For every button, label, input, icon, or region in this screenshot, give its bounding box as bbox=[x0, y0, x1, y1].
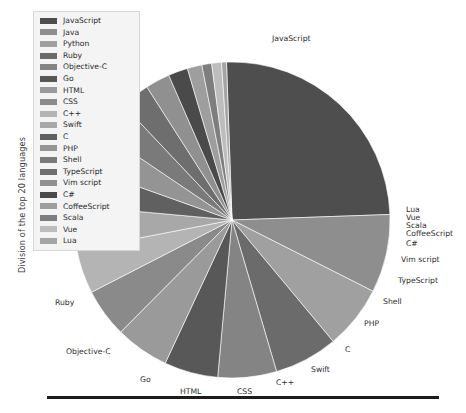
legend-item[interactable]: Ruby bbox=[37, 50, 137, 62]
pie-slice-label: Swift bbox=[311, 366, 330, 374]
legend-item-label: Python bbox=[63, 40, 89, 48]
legend-item-label: Swift bbox=[63, 121, 82, 129]
legend-swatch-icon bbox=[40, 180, 57, 186]
legend-item[interactable]: Shell bbox=[37, 154, 137, 166]
legend-item[interactable]: Vim script bbox=[37, 177, 137, 189]
legend-swatch-icon bbox=[40, 134, 57, 140]
legend-swatch-icon bbox=[40, 29, 57, 35]
legend-swatch-icon bbox=[40, 203, 57, 209]
legend-item[interactable]: JavaScript bbox=[37, 15, 137, 27]
legend-item[interactable]: Swift bbox=[37, 119, 137, 131]
legend-item-label: Java bbox=[63, 29, 79, 37]
pie-slice-label: Objective-C bbox=[66, 348, 111, 356]
legend-item[interactable]: Vue bbox=[37, 224, 137, 236]
legend-item-label: CoffeeScript bbox=[63, 203, 110, 211]
pie-slice-label: CoffeeScript bbox=[406, 230, 453, 238]
legend-item-label: TypeScript bbox=[63, 168, 102, 176]
legend[interactable]: JavaScriptJavaPythonRubyObjective-CGoHTM… bbox=[33, 11, 140, 251]
pie-slice-label: Vim script bbox=[401, 256, 440, 264]
legend-item[interactable]: CoffeeScript bbox=[37, 201, 137, 213]
pie-slice-label: Ruby bbox=[55, 299, 74, 307]
pie-slice-label: TypeScript bbox=[398, 277, 438, 285]
legend-swatch-icon bbox=[40, 215, 57, 221]
pie-slice-label: Shell bbox=[383, 298, 402, 306]
legend-item[interactable]: Scala bbox=[37, 212, 137, 224]
legend-swatch-icon bbox=[40, 145, 57, 151]
legend-item-label: Vim script bbox=[63, 179, 101, 187]
legend-item-label: Ruby bbox=[63, 52, 82, 60]
legend-swatch-icon bbox=[40, 122, 57, 128]
legend-item-label: Vue bbox=[63, 226, 77, 234]
pie-slice-label: JavaScript bbox=[272, 35, 311, 43]
legend-item[interactable]: C bbox=[37, 131, 137, 143]
legend-item-label: PHP bbox=[63, 145, 78, 153]
pie-chart-figure: Division of the top 20 languages JavaScr… bbox=[0, 0, 466, 413]
legend-item[interactable]: Go bbox=[37, 73, 137, 85]
pie-slice-label: CSS bbox=[237, 388, 252, 396]
legend-item[interactable]: Lua bbox=[37, 235, 137, 247]
legend-item-label: C# bbox=[63, 191, 75, 199]
legend-swatch-icon bbox=[40, 87, 57, 93]
legend-swatch-icon bbox=[40, 226, 57, 232]
pie-slice-label: HTML bbox=[180, 388, 201, 396]
legend-item[interactable]: C# bbox=[37, 189, 137, 201]
legend-swatch-icon bbox=[40, 18, 57, 24]
legend-swatch-icon bbox=[40, 157, 57, 163]
legend-swatch-icon bbox=[40, 41, 57, 47]
legend-item[interactable]: Objective-C bbox=[37, 61, 137, 73]
legend-item[interactable]: Python bbox=[37, 38, 137, 50]
legend-item[interactable]: TypeScript bbox=[37, 166, 137, 178]
legend-item-label: Scala bbox=[63, 214, 83, 222]
legend-item[interactable]: CSS bbox=[37, 96, 137, 108]
legend-item[interactable]: HTML bbox=[37, 85, 137, 97]
legend-swatch-icon bbox=[40, 99, 57, 105]
legend-item[interactable]: Java bbox=[37, 27, 137, 39]
pie-slice[interactable] bbox=[226, 62, 389, 220]
legend-item-label: Shell bbox=[63, 156, 82, 164]
legend-item-label: C++ bbox=[63, 110, 81, 118]
legend-item-label: Go bbox=[63, 75, 74, 83]
legend-item-label: Lua bbox=[63, 237, 77, 245]
pie-slice-label: Go bbox=[140, 376, 151, 384]
pie-slice-label: C bbox=[345, 346, 350, 354]
legend-item-label: C bbox=[63, 133, 68, 141]
legend-swatch-icon bbox=[40, 53, 57, 59]
legend-swatch-icon bbox=[40, 111, 57, 117]
legend-item[interactable]: PHP bbox=[37, 143, 137, 155]
legend-item-label: HTML bbox=[63, 87, 84, 95]
legend-swatch-icon bbox=[40, 238, 57, 244]
legend-item-label: JavaScript bbox=[63, 17, 101, 25]
legend-item-label: Objective-C bbox=[63, 63, 107, 71]
bottom-axis-rule bbox=[47, 396, 439, 399]
legend-swatch-icon bbox=[40, 64, 57, 70]
legend-swatch-icon bbox=[40, 169, 57, 175]
legend-swatch-icon bbox=[40, 192, 57, 198]
legend-item-label: CSS bbox=[63, 98, 78, 106]
pie-slice-label: C# bbox=[406, 240, 418, 248]
legend-swatch-icon bbox=[40, 76, 57, 82]
pie-slice-label: PHP bbox=[364, 320, 379, 328]
legend-item[interactable]: C++ bbox=[37, 108, 137, 120]
pie-slice-label: C++ bbox=[276, 379, 294, 387]
